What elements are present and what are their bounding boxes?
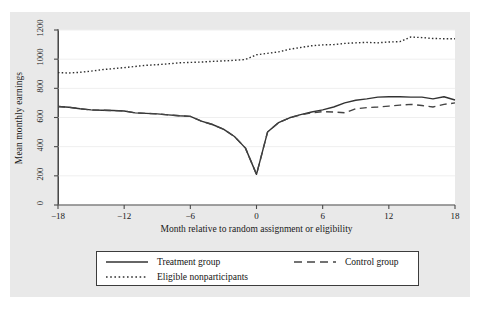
series-line [58, 103, 455, 174]
x-tick-label: 12 [374, 211, 404, 221]
x-tick-label: 0 [242, 211, 272, 221]
legend-label-treatment-group: Treatment group [157, 257, 220, 267]
series-line [58, 97, 455, 175]
y-axis-title: Mean monthly earnings [14, 0, 28, 48]
series-lines [58, 37, 455, 174]
x-axis-title: Month relative to random assignment or e… [58, 224, 455, 234]
legend-label-control-group: Control group [345, 257, 399, 267]
x-tick-label: −6 [175, 211, 205, 221]
y-tick-label: 200 [35, 161, 45, 187]
legend-key-dashed-icon [293, 257, 337, 267]
gridlines [58, 30, 455, 205]
axis-ticks [54, 30, 455, 209]
x-tick-label: 6 [308, 211, 338, 221]
y-tick-label: 1200 [35, 15, 45, 41]
legend-item-eligible-nonparticipants: Eligible nonparticipants [105, 270, 248, 284]
x-tick-label: −18 [43, 211, 73, 221]
y-tick-label: 1000 [35, 44, 45, 70]
legend-item-treatment-group: Treatment group [105, 255, 220, 269]
y-axis-title-label: Mean monthly earnings [14, 48, 24, 188]
x-tick-label: −12 [109, 211, 139, 221]
chart-legend: Treatment group Control group Eligible n… [96, 251, 419, 286]
y-tick-label: 600 [35, 103, 45, 129]
chart-screenshot: Mean monthly earnings 020040060080010001… [0, 0, 481, 311]
legend-item-control-group: Control group [293, 255, 399, 269]
y-tick-label: 400 [35, 132, 45, 158]
y-tick-label: 800 [35, 73, 45, 99]
legend-label-eligible-nonparticipants: Eligible nonparticipants [157, 272, 248, 282]
legend-key-dotted-icon [105, 272, 149, 282]
series-line [58, 37, 455, 73]
legend-key-solid-icon [105, 257, 149, 267]
x-tick-label: 18 [440, 211, 470, 221]
